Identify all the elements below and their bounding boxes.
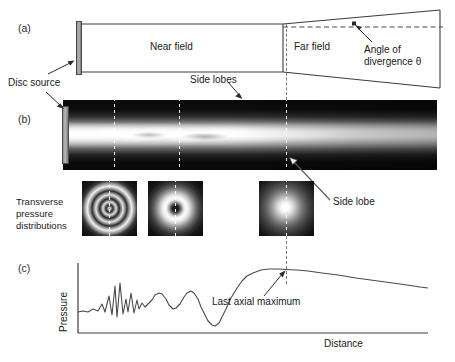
last-axial-maximum-label: Last axial maximum — [212, 296, 300, 308]
distance-axis-label: Distance — [324, 338, 363, 350]
pressure-axis-label: Pressure — [58, 272, 72, 332]
acoustic-beam-figure: (a) Near field Far field Angle of diverg… — [0, 0, 455, 362]
